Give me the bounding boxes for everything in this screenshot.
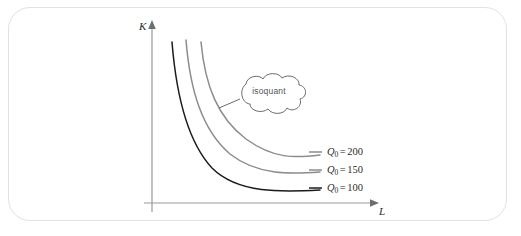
x-axis-label: L: [379, 205, 385, 217]
isoquant-curve-q100: [172, 42, 320, 191]
curve-label-q150-symbol: Q: [327, 164, 335, 175]
curve-label-q200-symbol: Q: [327, 146, 335, 157]
curve-label-q100-value: 100: [347, 182, 363, 193]
curve-label-q100-equals: =: [338, 182, 347, 193]
y-axis-label: K: [139, 20, 146, 32]
y-axis: [148, 20, 156, 212]
callout-label: isoquant: [232, 86, 306, 96]
curve-label-q100: Q0=100: [327, 182, 363, 195]
x-axis: [144, 199, 379, 207]
curve-label-q150-equals: =: [338, 164, 347, 175]
curve-label-q200-equals: =: [338, 146, 347, 157]
curve-label-q150-value: 150: [347, 164, 363, 175]
curve-label-q150: Q0=150: [327, 164, 363, 177]
isoquant-figure: K L Q0=200 Q0=150 Q0=100 isoquant: [0, 0, 521, 236]
curve-label-q100-symbol: Q: [327, 182, 335, 193]
curve-label-q200-value: 200: [347, 146, 363, 157]
callout-pointer: [219, 99, 240, 108]
curve-label-q200: Q0=200: [327, 146, 363, 159]
isoquant-plot: [0, 0, 521, 236]
